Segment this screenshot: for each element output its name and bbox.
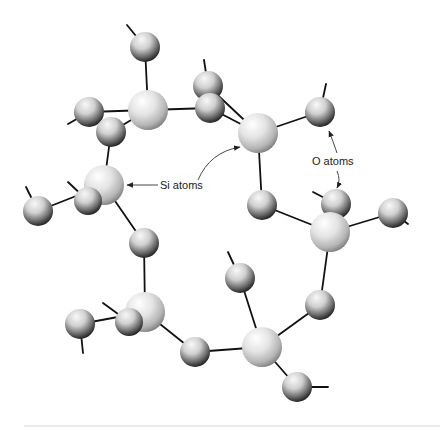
oxygen-atom xyxy=(225,263,255,293)
oxygen-atom xyxy=(305,97,335,127)
atoms xyxy=(23,32,408,402)
oxygen-atom xyxy=(130,32,160,62)
silicon-atom xyxy=(238,113,278,153)
oxygen-atom xyxy=(305,290,335,320)
oxygen-atom xyxy=(129,228,159,258)
oxygen-atom xyxy=(65,309,95,339)
oxygen-atom xyxy=(23,196,53,226)
silicon-atom xyxy=(128,90,168,130)
oxygen-atom xyxy=(74,187,102,215)
si-leader-arrow-right xyxy=(198,147,240,180)
si-atoms-label: Si atoms xyxy=(160,179,203,191)
o-atoms-label: O atoms xyxy=(312,155,354,167)
silicon-atom xyxy=(310,212,350,252)
oxygen-atom xyxy=(378,198,408,228)
oxygen-atom xyxy=(115,308,143,336)
silicon-atom xyxy=(242,327,282,367)
o-leader-arrow-down xyxy=(337,171,339,188)
silicate-ring-diagram: Si atoms O atoms xyxy=(0,0,440,431)
oxygen-atom xyxy=(282,372,312,402)
oxygen-atom xyxy=(180,337,210,367)
o-leader-arrow-up xyxy=(329,131,337,153)
oxygen-atom xyxy=(195,93,225,123)
oxygen-atom xyxy=(247,190,277,220)
oxygen-atom xyxy=(96,117,126,147)
